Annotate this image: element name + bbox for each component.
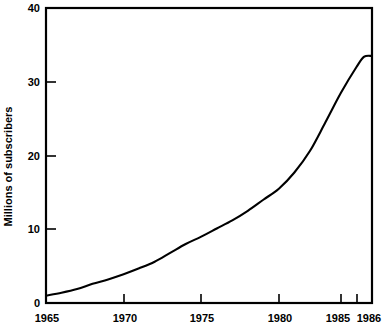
- plot-border: [46, 8, 372, 303]
- plot-area: [0, 0, 382, 333]
- data-line-subscribers: [46, 56, 372, 296]
- x-axis-ticks: [124, 294, 357, 303]
- chart-figure: Millions of subscribers 40 30 20 10 0 19…: [0, 0, 382, 333]
- y-axis-ticks: [46, 82, 56, 229]
